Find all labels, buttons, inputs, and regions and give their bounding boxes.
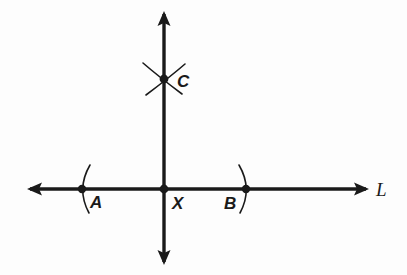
point-label-x: X [171, 194, 185, 213]
point-dot-c [160, 75, 169, 84]
point-dot-a [78, 185, 86, 193]
paper-background [0, 0, 407, 275]
line-label-l: L [375, 179, 387, 200]
point-dot-b [242, 185, 250, 193]
geometry-figure: A X B C L [0, 0, 407, 275]
point-dot-x [160, 185, 169, 194]
geometry-canvas: A X B C L [0, 0, 407, 275]
point-label-b: B [224, 194, 236, 213]
point-label-c: C [177, 72, 190, 91]
point-label-a: A [89, 193, 102, 212]
